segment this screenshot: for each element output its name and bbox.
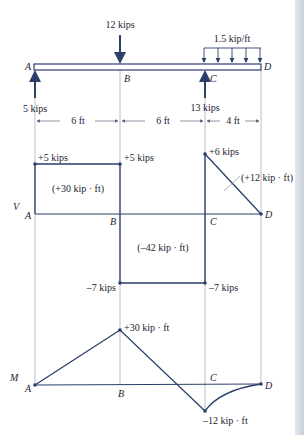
moment-point-d: D <box>264 380 273 391</box>
dimension-bc: 6 ft <box>156 115 170 126</box>
shear-point-b: B <box>110 216 116 227</box>
moment-point-a: A <box>24 383 32 394</box>
shear-point-a: A <box>24 210 32 221</box>
moment-diagram: M A B C D +30 kip · ft –12 kip · ft <box>9 322 273 426</box>
shear-value-a: +5 kips <box>38 152 68 163</box>
moment-point-b: B <box>118 388 124 399</box>
reaction-a-label: 5 kips <box>23 103 47 114</box>
shear-value-b-minus: –7 kips <box>86 282 116 293</box>
moment-point-c: C <box>210 372 217 383</box>
beam-diagram: 12 kips 1.5 kip/ft 5 kips 13 kips A B C … <box>0 0 304 435</box>
reaction-c-label: 13 kips <box>190 102 219 113</box>
point-load-label: 12 kips <box>105 19 134 30</box>
dimension-ab: 6 ft <box>71 115 85 126</box>
point-d-label: D <box>263 61 272 72</box>
point-a-label: A <box>24 61 32 72</box>
shear-point-d: D <box>264 209 273 220</box>
shear-area-ab: (+30 kip · ft) <box>52 183 104 195</box>
distributed-load-label: 1.5 kip/ft <box>214 33 251 44</box>
moment-value-c: –12 kip · ft <box>202 415 248 426</box>
shear-value-b-plus: +5 kips <box>124 152 154 163</box>
distributed-load-arrows-icon <box>204 48 261 62</box>
moment-curve <box>35 330 261 411</box>
moment-value-b: +30 kip · ft <box>124 322 170 333</box>
shear-value-c-plus: +6 kips <box>209 146 239 157</box>
shear-area-cd: (+12 kip · ft) <box>241 172 293 184</box>
point-c-label: C <box>210 73 217 84</box>
dimension-cd: 4 ft <box>226 115 240 126</box>
loading-diagram: 12 kips 1.5 kip/ft 5 kips 13 kips A B C … <box>23 19 272 126</box>
shear-diagram: V A B C D +5 kips +5 kips +6 kips –7 kip… <box>13 146 293 293</box>
shear-point-c: C <box>210 216 217 227</box>
shear-curve <box>35 154 261 283</box>
beam <box>34 64 261 70</box>
moment-axis-label: M <box>9 372 19 383</box>
shear-axis-label: V <box>13 201 21 212</box>
shear-area-bc: (–42 kip · ft) <box>137 242 188 254</box>
point-b-label: B <box>124 73 130 84</box>
shear-value-c-minus: –7 kips <box>208 282 238 293</box>
moment-baseline <box>35 384 261 385</box>
